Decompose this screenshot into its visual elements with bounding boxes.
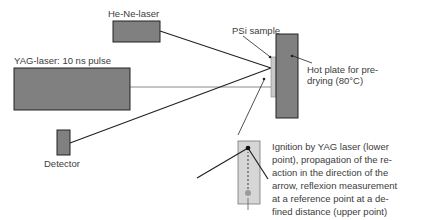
yag-laser-box: [14, 68, 130, 110]
hot-plate-label: Hot plate for pre- drying (80°C): [307, 64, 378, 86]
hot-plate-pointer-dot: [291, 55, 294, 58]
hot-plate-label-line1: Hot plate for pre-: [307, 64, 378, 75]
description-line: at a reference point at a de-: [272, 192, 397, 205]
description-text: Ignition by YAG laser (lower point), pro…: [272, 140, 397, 218]
yag-laser-label: YAG-laser: 10 ns pulse: [14, 55, 111, 66]
hot-plate: [276, 34, 298, 118]
psi-sample-strip: [271, 57, 276, 97]
ignition-point-dot: [245, 190, 251, 196]
he-ne-beam: [160, 31, 271, 68]
description-line: fined distance (upper point): [272, 205, 397, 218]
inset-pointer: [238, 80, 264, 135]
detector-box: [57, 130, 70, 155]
description-line: arrow, reflexion measurement: [272, 179, 397, 192]
hot-plate-label-line2: drying (80°C): [307, 75, 378, 86]
he-ne-laser-box: [113, 21, 160, 42]
psi-sample-label: PSi sample: [232, 25, 280, 36]
inset-pointer-dot: [263, 78, 266, 81]
reference-point-dot: [246, 146, 251, 151]
description-line: action in the direction of the: [272, 166, 397, 179]
psi-sample-pointer-dot: [269, 56, 272, 59]
detector-label: Detector: [44, 158, 80, 169]
psi-sample-pointer: [243, 36, 269, 56]
he-ne-laser-label: He-Ne-laser: [108, 8, 159, 19]
description-line: Ignition by YAG laser (lower: [272, 140, 397, 153]
description-line: point), propagation of the re-: [272, 153, 397, 166]
